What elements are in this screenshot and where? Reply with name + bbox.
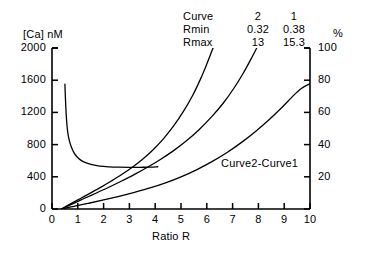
y-left-tick-label-4: 1600	[16, 74, 46, 85]
legend-row-label: Rmin	[183, 24, 209, 35]
curve-annotation-0: Curve2-Curve1	[221, 158, 298, 169]
axis-ticks	[52, 48, 310, 209]
legend-row: Curve 2 1	[183, 11, 203, 22]
y-right-tick-label-3: 60	[318, 106, 331, 117]
legend-cell-rmax-curve1: 15.3	[281, 37, 307, 48]
curve-difference	[62, 84, 310, 209]
x-tick-label-8: 8	[246, 214, 270, 225]
legend-cell-rmax-curve2: 13	[245, 37, 271, 48]
x-tick-label-2: 2	[92, 214, 116, 225]
legend-row-label: Rmax	[183, 37, 213, 48]
legend-cell-curve1: 1	[281, 11, 307, 22]
y-right-tick-label-2: 40	[318, 139, 331, 150]
x-tick-label-7: 7	[221, 214, 245, 225]
x-tick-label-4: 4	[143, 214, 167, 225]
legend-row: Rmin 0.32 0.38	[183, 24, 203, 35]
x-tick-label-3: 3	[117, 214, 141, 225]
y-left-tick-label-5: 2000	[16, 42, 46, 53]
y-right-tick-label-4: 80	[318, 74, 331, 85]
y-axis-right-title: %	[333, 28, 343, 39]
legend-table: Curve 2 1 Rmin 0.32 0.38 Rmax 13 15.3	[183, 11, 203, 44]
x-tick-label-5: 5	[169, 214, 193, 225]
x-tick-label-9: 9	[272, 214, 296, 225]
y-axis-left-title: [Ca] nM	[23, 29, 63, 40]
x-tick-label-0: 0	[40, 214, 64, 225]
legend-cell-rmin-curve1: 0.38	[281, 24, 307, 35]
legend-cell-curve2: 2	[245, 11, 271, 22]
x-tick-label-1: 1	[66, 214, 90, 225]
y-left-tick-label-0: 0	[16, 203, 46, 214]
legend-cell-rmin-curve2: 0.32	[245, 24, 271, 35]
y-left-tick-label-1: 400	[16, 171, 46, 182]
x-axis-title: Ratio R	[152, 231, 190, 242]
y-right-tick-label-1: 20	[318, 171, 331, 182]
axes-group	[52, 48, 310, 209]
x-tick-label-6: 6	[195, 214, 219, 225]
legend-row-label: Curve	[183, 11, 213, 22]
y-left-tick-label-2: 800	[16, 139, 46, 150]
curve-decay	[65, 84, 158, 167]
y-right-tick-label-5: 100	[318, 42, 337, 53]
y-left-tick-label-3: 1200	[16, 106, 46, 117]
x-tick-label-10: 10	[298, 214, 322, 225]
chart-figure: [Ca] nM % Ratio R Curve 2 1 Rmin 0.32 0.…	[0, 0, 366, 265]
legend-row: Rmax 13 15.3	[183, 37, 203, 48]
